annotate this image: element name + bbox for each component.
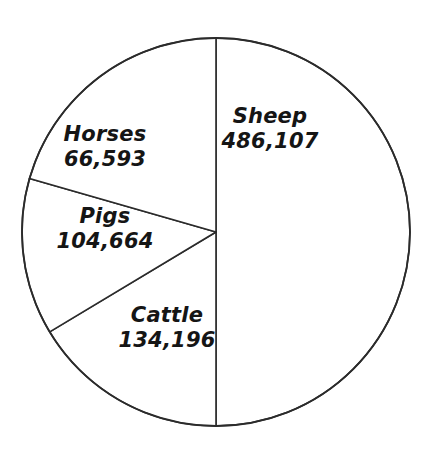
pie-label-horses-name: Horses xyxy=(34,122,176,147)
pie-label-cattle-value: 134,196 xyxy=(92,328,242,353)
pie-label-horses-value: 66,593 xyxy=(34,147,176,172)
pie-label-cattle-name: Cattle xyxy=(92,303,242,328)
pie-label-sheep-value: 486,107 xyxy=(190,129,350,154)
pie-label-sheep-name: Sheep xyxy=(190,104,350,129)
pie-label-pigs-value: 104,664 xyxy=(30,229,180,254)
pie-slice-sheep[interactable] xyxy=(216,38,410,426)
pie-label-pigs: Pigs 104,664 xyxy=(30,204,180,254)
pie-label-pigs-name: Pigs xyxy=(30,204,180,229)
pie-chart: Sheep 486,107 Horses 66,593 Pigs 104,664… xyxy=(0,0,433,450)
pie-label-cattle: Cattle 134,196 xyxy=(92,303,242,353)
pie-label-sheep: Sheep 486,107 xyxy=(190,104,350,154)
pie-label-horses: Horses 66,593 xyxy=(34,122,176,172)
